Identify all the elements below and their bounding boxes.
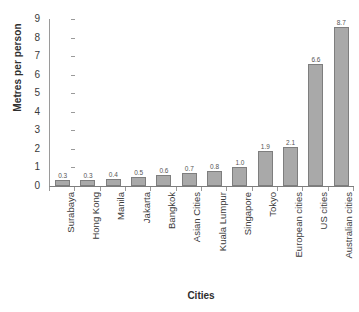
- y-tick-label: 4: [26, 107, 40, 117]
- category-slot: Kuala Lumpur: [201, 192, 226, 284]
- bar-slot: 0.3: [75, 19, 100, 186]
- x-tick-mark: [252, 187, 253, 191]
- y-tick-label: 6: [26, 70, 40, 80]
- bar-value-label: 0.6: [159, 167, 168, 174]
- bar[interactable]: [258, 151, 273, 186]
- bar-value-label: 1.0: [235, 159, 244, 166]
- bar[interactable]: [80, 180, 95, 186]
- category-slot: Tokyo: [252, 192, 277, 284]
- bar-value-label: 6.6: [311, 56, 320, 63]
- x-tick-mark: [226, 187, 227, 191]
- bar-value-label: 0.5: [134, 169, 143, 176]
- y-axis-tick-labels: 0123456789: [26, 13, 40, 187]
- x-axis-tick-marks: [49, 187, 354, 191]
- bar-value-label: 0.8: [210, 163, 219, 170]
- bar-slot: 0.6: [151, 19, 176, 186]
- x-axis-title: Cities: [49, 290, 353, 301]
- category-slot: US cities: [302, 192, 327, 284]
- bar-slot: 1.0: [227, 19, 252, 186]
- bar-value-label: 0.4: [109, 171, 118, 178]
- bar[interactable]: [232, 167, 247, 186]
- bar-chart: Metres per person 0123456789 0.30.30.40.…: [0, 0, 359, 312]
- plot-area: 0.30.30.40.50.60.70.81.01.92.16.68.7: [49, 19, 354, 187]
- category-slot: Asian Cities: [176, 192, 201, 284]
- bar-value-label: 0.3: [83, 172, 92, 179]
- bar[interactable]: [308, 64, 323, 186]
- x-tick-mark: [201, 187, 202, 191]
- bar-slot: 8.7: [329, 19, 354, 186]
- x-tick-mark: [302, 187, 303, 191]
- bar-value-label: 8.7: [337, 19, 346, 26]
- bar-value-label: 2.1: [286, 139, 295, 146]
- x-axis-category-labels: SurabayaHong KongManilaJakartaBangkokAsi…: [49, 192, 353, 284]
- bar-slot: 0.7: [177, 19, 202, 186]
- category-slot: Jakarta: [125, 192, 150, 284]
- y-tick-label: 2: [26, 144, 40, 154]
- x-tick-mark: [74, 187, 75, 191]
- x-tick-mark: [125, 187, 126, 191]
- bar-slot: 0.3: [50, 19, 75, 186]
- y-tick-label: 1: [26, 162, 40, 172]
- x-tick-mark: [100, 187, 101, 191]
- category-slot: Hong Kong: [74, 192, 99, 284]
- bar[interactable]: [207, 171, 222, 186]
- x-tick-mark: [353, 187, 354, 191]
- bar-slot: 0.5: [126, 19, 151, 186]
- bar[interactable]: [283, 147, 298, 186]
- bars-container: 0.30.30.40.50.60.70.81.01.92.16.68.7: [50, 19, 354, 186]
- bar[interactable]: [55, 180, 70, 186]
- bar[interactable]: [334, 27, 349, 186]
- bar-value-label: 0.7: [185, 165, 194, 172]
- x-category-label: Australian cities: [344, 192, 354, 259]
- x-tick-mark: [176, 187, 177, 191]
- y-tick-label: 3: [26, 125, 40, 135]
- y-tick-label: 7: [26, 51, 40, 61]
- y-tick-label: 5: [26, 88, 40, 98]
- bar-value-label: 1.9: [261, 143, 270, 150]
- category-slot: Manila: [100, 192, 125, 284]
- bar[interactable]: [106, 179, 121, 186]
- y-tick-label: 0: [26, 181, 40, 191]
- x-tick-mark: [328, 187, 329, 191]
- bar[interactable]: [182, 173, 197, 186]
- y-tick-label: 9: [26, 14, 40, 24]
- category-slot: Bangkok: [150, 192, 175, 284]
- category-slot: Surabaya: [49, 192, 74, 284]
- bar-slot: 2.1: [278, 19, 303, 186]
- bar-slot: 0.8: [202, 19, 227, 186]
- bar[interactable]: [156, 175, 171, 186]
- bar-value-label: 0.3: [58, 172, 67, 179]
- x-tick-mark: [49, 187, 50, 191]
- bar-slot: 0.4: [101, 19, 126, 186]
- category-slot: Singapore: [226, 192, 251, 284]
- y-tick-label: 8: [26, 33, 40, 43]
- x-tick-mark: [277, 187, 278, 191]
- category-slot: Australian cities: [328, 192, 353, 284]
- bar-slot: 6.6: [303, 19, 328, 186]
- y-axis-title: Metres per person: [12, 8, 23, 128]
- category-slot: European cities: [277, 192, 302, 284]
- bar-slot: 1.9: [253, 19, 278, 186]
- bar[interactable]: [131, 177, 146, 186]
- x-tick-mark: [150, 187, 151, 191]
